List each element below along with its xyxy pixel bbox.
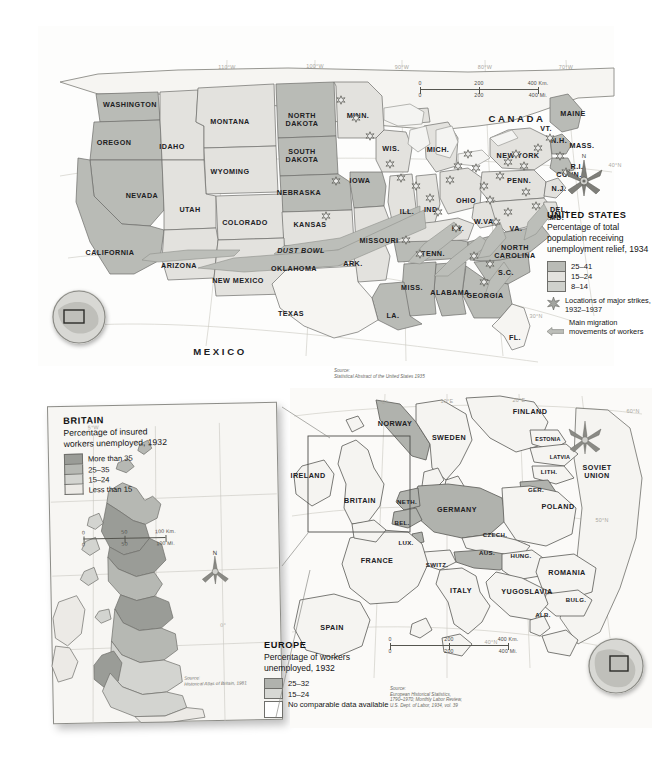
compass-north-label: N — [213, 550, 217, 556]
us-legend: UNITED STATES Percentage of total popula… — [547, 210, 652, 340]
strike-star-icon — [480, 182, 489, 191]
europe-source-line-3: 1790–1970; Monthly Labor Review, — [390, 697, 462, 703]
e-scale-km-2: 400 Km. — [498, 636, 519, 642]
strike-star-icon — [534, 144, 543, 153]
label-hung: HUNG. — [510, 552, 531, 560]
b-scale-mi-0: 0 — [82, 542, 85, 548]
strike-star-icon — [386, 160, 395, 169]
label-maine: MAINE — [560, 110, 585, 118]
graticule-30-n: 30°N — [529, 313, 542, 319]
b-scale-km-1: 50 — [121, 529, 127, 535]
europe-legend-subtitle: Percentage of workers unemployed, 1932 — [264, 652, 396, 674]
compass-icon — [564, 154, 604, 198]
strike-star-icon — [480, 278, 489, 287]
strike-star-icon — [470, 252, 479, 261]
label-poland: POLAND — [541, 503, 574, 511]
legend-class-row: Less than 15 — [64, 483, 170, 495]
globe-icon — [52, 290, 106, 344]
label-la: LA. — [387, 312, 400, 320]
strike-star-icon — [426, 194, 435, 203]
legend-class-row: 15–24 — [264, 689, 396, 699]
label-texas: TEXAS — [278, 310, 304, 318]
britain-legend: BRITAIN Percentage of insured workers un… — [63, 414, 171, 495]
legend-symbol-migration: Main migration movements of workers — [547, 318, 652, 340]
legend-swatch-25-35 — [64, 465, 83, 475]
label-france: FRANCE — [361, 557, 394, 565]
strike-star-icon — [546, 134, 555, 143]
label-north-dakota: NORTHDAKOTA — [286, 112, 319, 128]
britain-source-line-2: Historical Atlas of Britain, 1981 — [184, 680, 246, 687]
strike-star-icon — [522, 188, 531, 197]
britain-compass-rose: N — [200, 551, 231, 586]
legend-swatch-low — [547, 282, 566, 292]
europe-source-line-4: U.S. Dept. of Labor, 1934, vol. 39 — [390, 703, 462, 709]
us-scale-bar: 0 200 400 Km. 0 200 400 Mi. — [420, 80, 538, 101]
label-alabama: ALABAMA — [430, 289, 469, 297]
label-fl: FL. — [509, 334, 521, 342]
britain-scale-bar: 0 50 100 Km. 0 50 100 Mi. — [83, 528, 165, 551]
legend-swatch-25-32 — [264, 678, 283, 689]
europe-globe-inset — [588, 638, 644, 694]
label-britain: BRITAIN — [344, 497, 376, 505]
label-arizona: ARIZONA — [161, 262, 197, 270]
arrow-left-icon — [547, 322, 564, 340]
label-nebraska: NEBRASKA — [277, 189, 321, 197]
label-czech: CZECH. — [483, 531, 507, 539]
strike-star-icon — [520, 162, 529, 171]
legend-label-lessthan15: Less than 15 — [88, 485, 132, 495]
legend-label-nodata: No comparable data available — [288, 701, 388, 709]
strike-star-icon — [416, 250, 425, 259]
legend-class-row: 25–41 — [547, 261, 652, 272]
scale-km-1: 200 — [474, 80, 483, 86]
strike-star-icon — [486, 260, 495, 269]
strike-star-icon — [496, 172, 505, 181]
label-wyoming: WYOMING — [210, 168, 249, 176]
united-states-map: CANADA MEXICO WASHINGTONOREGONIDAHOMONTA… — [38, 26, 614, 366]
graticule-40-n: 40°N — [608, 162, 621, 168]
label-south-dakota: SOUTHDAKOTA — [286, 148, 319, 164]
e-scale-mi-2: 400 Mi. — [499, 648, 517, 654]
label-wis: WIS. — [382, 145, 399, 153]
legend-class-row: 15–24 — [547, 272, 652, 282]
label-ill: ILL. — [400, 208, 415, 216]
star-icon — [547, 296, 560, 314]
strike-star-icon — [452, 224, 461, 233]
strike-star-icon — [402, 236, 411, 245]
label-norway: NORWAY — [378, 420, 412, 428]
label-washington: WASHINGTON — [103, 101, 157, 109]
legend-class-row: No comparable data available — [264, 701, 396, 718]
label-lith: LITH. — [541, 468, 558, 476]
legend-swatch-morethan35 — [64, 454, 83, 465]
scale-mi-2: 400 Mi. — [529, 92, 547, 98]
label-lux: LUX. — [398, 539, 413, 547]
legend-class-row: 8–14 — [547, 282, 652, 292]
strike-star-icon — [492, 218, 501, 227]
label-germany: GERMANY — [437, 506, 477, 514]
strike-star-icon — [512, 150, 521, 159]
label-penn: PENN. — [507, 177, 531, 185]
label-tenn: TENN. — [421, 250, 445, 258]
graticule-50-n: 50°N — [595, 517, 608, 523]
strike-star-icon — [486, 196, 495, 205]
label-s-c: S.C. — [498, 269, 514, 277]
legend-label-morethan35: More than 35 — [88, 454, 133, 464]
strike-star-icon — [337, 96, 346, 105]
b-scale-mi-2: 100 Mi. — [156, 540, 175, 546]
europe-source-note: Source: European Historical Statistics, … — [390, 686, 462, 708]
b-scale-km-0: 0 — [82, 530, 85, 536]
europe-compass-rose — [568, 418, 602, 456]
label-montana: MONTANA — [210, 118, 249, 126]
legend-label-15-24: 15–24 — [288, 690, 309, 699]
us-source-line-2: Statistical Abstract of the United State… — [334, 374, 425, 380]
compass-icon — [568, 418, 602, 456]
legend-label-25-32: 25–32 — [288, 679, 309, 688]
scale-mi-1: 200 — [474, 92, 483, 98]
label-new-mexico: NEW MEXICO — [212, 277, 264, 285]
label-kansas: KANSAS — [293, 221, 326, 229]
legend-swatch-15-24 — [264, 689, 283, 699]
label-mich: MICH. — [427, 146, 450, 154]
us-globe-inset — [52, 290, 106, 344]
graticule-0-: 0° — [382, 399, 388, 405]
label-aus: AUS. — [479, 549, 495, 557]
label-alb: ALB. — [535, 611, 550, 619]
